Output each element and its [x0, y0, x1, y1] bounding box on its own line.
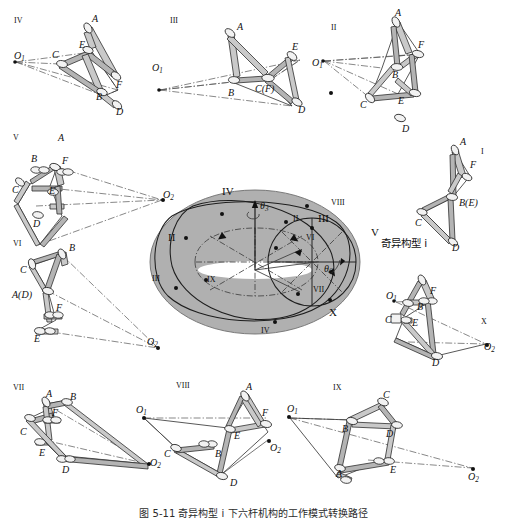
mechanism-vii-art [24, 396, 151, 469]
joint-label-C: C [52, 50, 59, 60]
mechanism-numeral-x: x [481, 315, 487, 326]
joint-label-F: F [116, 80, 122, 90]
pole-label-O1: O1 [136, 405, 147, 417]
joint-label-B: B [228, 88, 234, 98]
joint-label-F: F [262, 408, 268, 418]
pole-label-O1: O1 [14, 51, 25, 63]
mechanism-numeral-vi: vi [13, 237, 21, 248]
joint-label-C: C [20, 265, 27, 275]
joint-label-A: A [237, 22, 243, 32]
joint-label-BE: B(E) [459, 198, 478, 208]
mechanism-numeral-v: v [13, 131, 19, 142]
joint-label-A: A [336, 469, 342, 479]
axis-label-theta3: θ3 [260, 201, 269, 213]
joint-label-B: B [392, 70, 398, 80]
joint-label-F: F [418, 40, 424, 50]
joint-label-D: D [116, 107, 123, 117]
joint-label-B: B [31, 154, 37, 164]
joint-label-E: E [390, 465, 396, 475]
joint-label-D: D [33, 219, 40, 229]
pole-label-O1: O1 [152, 63, 163, 75]
singular-configuration-annotation: 奇异构型 i [381, 238, 427, 249]
mechanism-numeral-iv: iv [14, 14, 22, 25]
pole-label-O2: O2 [484, 342, 495, 354]
mechanism-numeral-viii: viii [176, 379, 190, 390]
pole-label-O1: O1 [312, 58, 323, 70]
joint-label-D: D [230, 478, 237, 488]
joint-label-C: C [385, 315, 392, 325]
joint-label-A: A [92, 14, 98, 24]
joint-label-C: C [383, 390, 390, 400]
joint-label-F: F [52, 408, 58, 418]
joint-label-F: F [62, 156, 68, 166]
pole-label-O2: O2 [150, 458, 161, 470]
surface-label-ix: ix [207, 273, 215, 284]
mechanism-iv-art [13, 22, 123, 112]
axis-label-theta6: θ6 [324, 264, 333, 276]
joint-label-E: E [292, 42, 298, 52]
mechanism-vi-art [27, 248, 160, 350]
joint-label-B: B [96, 92, 102, 102]
joint-label-CF: C(F) [255, 84, 274, 94]
surface-label-vii: vii [313, 283, 324, 294]
joint-label-F: F [470, 160, 476, 170]
joint-label-E: E [79, 40, 85, 50]
surface-label-ii: ii [293, 212, 298, 223]
mechanism-numeral-i: i [481, 145, 484, 156]
joint-label-E: E [234, 431, 240, 441]
mechanism-ii-art [321, 15, 424, 123]
pole-label-O1: O1 [287, 404, 298, 416]
joint-label-A: A [246, 382, 252, 392]
joint-label-C: C [12, 185, 19, 195]
joint-label-B: B [69, 243, 75, 253]
pole-label-O2: O2 [270, 443, 281, 455]
mechanism-viii-art [142, 389, 272, 480]
joint-label-B: B [417, 302, 423, 312]
pole-label-O1: O1 [386, 291, 397, 303]
joint-label-E: E [398, 96, 404, 106]
pole-label-O2: O2 [147, 337, 158, 349]
mechanism-x-art [391, 274, 489, 361]
joint-label-D: D [402, 124, 409, 134]
joint-label-F: F [430, 286, 436, 296]
joint-label-B: B [215, 449, 221, 459]
surface-label-iv: iv [261, 324, 269, 335]
mechanism-i-art [416, 144, 473, 248]
mechanism-numeral-ii: ii [331, 21, 336, 32]
joint-label-C: C [20, 427, 27, 437]
joint-label-A: A [58, 133, 64, 143]
surface-label-X: X [329, 307, 337, 318]
mechanism-ix-art [287, 397, 475, 484]
joint-label-C: C [360, 100, 367, 110]
joint-label-B: B [70, 392, 76, 402]
joint-label-C: C [415, 218, 422, 228]
surface-label-II: II [168, 232, 175, 243]
joint-label-A: A [46, 389, 52, 399]
pole-label-O2: O2 [468, 472, 479, 484]
joint-label-E: E [34, 334, 40, 344]
surface-label-V: V [371, 227, 379, 238]
surface-label-vi: vi [306, 231, 314, 242]
joint-label-AD: A(D) [12, 290, 32, 300]
joint-label-A: A [395, 8, 401, 18]
surface-label-III: III [318, 213, 329, 224]
joint-label-F: F [56, 303, 62, 313]
joint-label-E: E [49, 186, 55, 196]
surface-label-iii: iii [152, 272, 160, 283]
surface-label-IV: IV [222, 186, 234, 197]
joint-label-D: D [62, 465, 69, 475]
joint-label-E: E [412, 318, 418, 328]
mechanism-v-art [14, 162, 165, 247]
joint-label-D: D [386, 429, 393, 439]
mechanism-numeral-ix: ix [333, 381, 341, 392]
pole-label-O2: O2 [163, 190, 174, 202]
surface-label-viii: viii [331, 196, 345, 207]
joint-label-C: C [164, 449, 171, 459]
mechanism-numeral-vii: vii [13, 381, 24, 392]
joint-label-D: D [298, 105, 305, 115]
joint-label-A: A [460, 137, 466, 147]
joint-label-B: B [342, 424, 348, 434]
joint-label-D: D [452, 243, 459, 253]
